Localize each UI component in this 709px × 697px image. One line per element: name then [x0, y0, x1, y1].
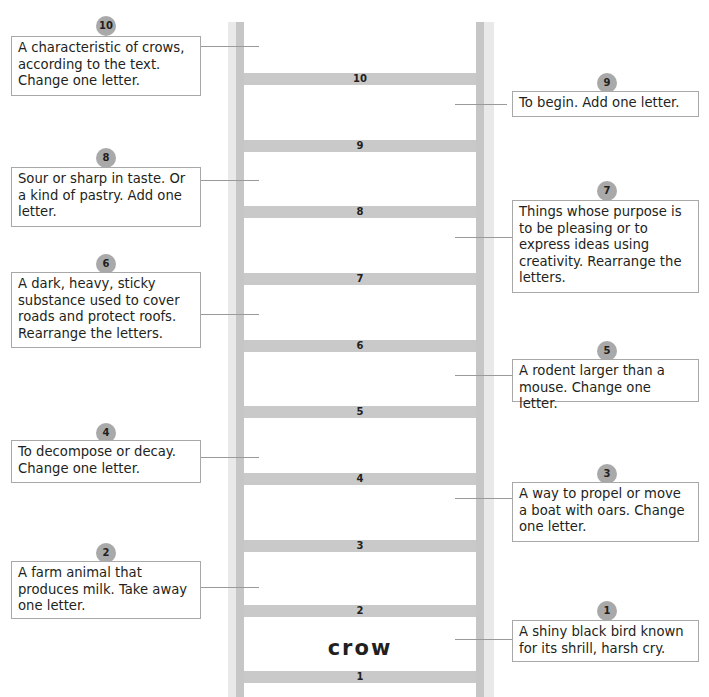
rung-7: 7: [244, 273, 476, 285]
clue-badge-9: 9: [597, 73, 617, 93]
clue-box-6: A dark, heavy, sticky substance used to …: [11, 272, 201, 348]
clue-box-5: A rodent larger than a mouse. Change one…: [512, 359, 699, 402]
clue-box-1: A shiny black bird known for its shrill,…: [512, 620, 699, 662]
clue-badge-7: 7: [597, 181, 617, 201]
leader-line-2: [201, 587, 259, 588]
clue-box-8: Sour or sharp in taste. Or a kind of pas…: [11, 167, 201, 227]
start-word: crow: [244, 636, 476, 660]
clue-badge-1: 1: [597, 601, 617, 621]
rung-10: 10: [244, 73, 476, 85]
rung-1: 1: [244, 671, 476, 683]
clue-badge-2: 2: [96, 543, 116, 563]
leader-line-9: [455, 104, 507, 105]
leader-line-5: [455, 375, 512, 376]
clue-badge-8: 8: [96, 148, 116, 168]
clue-box-3: A way to propel or move a boat with oars…: [512, 482, 699, 542]
clue-box-7: Things whose purpose is to be pleasing o…: [512, 200, 699, 293]
rung-5: 5: [244, 406, 476, 418]
rung-4: 4: [244, 473, 476, 485]
clue-badge-10: 10: [96, 16, 116, 36]
clue-badge-3: 3: [597, 464, 617, 484]
rung-3: 3: [244, 540, 476, 552]
ladder-right-rail-outer: [484, 22, 494, 697]
clue-box-10: A characteristic of crows, according to …: [11, 36, 201, 96]
ladder-left-rail: [236, 22, 244, 697]
leader-line-4: [201, 457, 259, 458]
ladder-right-rail: [476, 22, 484, 697]
leader-line-3: [455, 498, 512, 499]
clue-box-2: A farm animal that produces milk. Take a…: [11, 561, 201, 619]
leader-line-6: [201, 314, 259, 315]
clue-box-4: To decompose or decay. Change one letter…: [11, 440, 201, 483]
leader-line-7: [455, 237, 512, 238]
rung-2: 2: [244, 605, 476, 617]
clue-badge-5: 5: [597, 341, 617, 361]
leader-line-8: [201, 180, 259, 181]
rung-8: 8: [244, 206, 476, 218]
clue-box-9: To begin. Add one letter.: [512, 91, 699, 117]
rung-9: 9: [244, 140, 476, 152]
leader-line-10: [201, 46, 259, 47]
clue-badge-6: 6: [96, 254, 116, 274]
leader-line-1: [455, 639, 512, 640]
rung-6: 6: [244, 340, 476, 352]
